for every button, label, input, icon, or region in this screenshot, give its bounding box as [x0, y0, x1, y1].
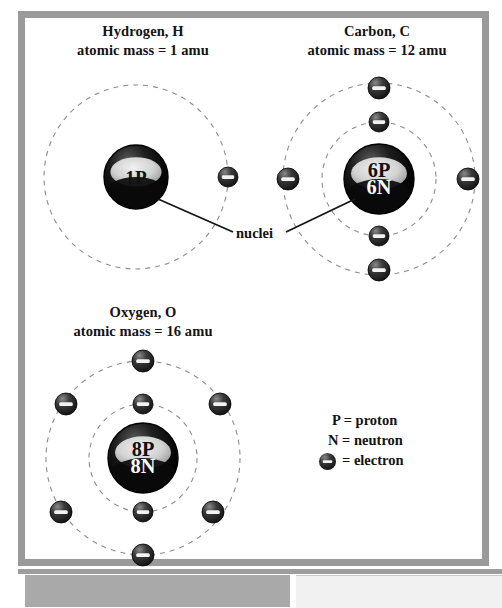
caption-oxygen-mass: atomic mass = 16 amu — [34, 322, 252, 341]
electron-minus-bar — [136, 553, 150, 557]
electron-minus-bar — [372, 268, 386, 272]
caption-carbon: Carbon, C atomic mass = 12 amu — [268, 22, 486, 59]
electron-oxygen-1 — [133, 394, 153, 414]
legend-row-neutron: N = neutron — [318, 430, 468, 450]
caption-carbon-mass: atomic mass = 12 amu — [268, 41, 486, 60]
legend-proton-text: P = proton — [332, 410, 397, 430]
caption-oxygen-name: Oxygen, O — [34, 303, 252, 322]
electron-oxygen-2 — [133, 502, 153, 522]
electron-hydrogen-1 — [218, 167, 238, 187]
legend-neutron-text: N = neutron — [328, 430, 403, 450]
electron-carbon-2 — [369, 226, 389, 246]
nucleus-neutron-label-carbon: 6N — [367, 176, 392, 198]
electron-oxygen-3 — [132, 350, 154, 372]
electron-minus-bar — [136, 359, 150, 363]
electron-carbon-4 — [368, 259, 390, 281]
electron-minus-bar — [372, 86, 386, 90]
electron-minus-bar — [206, 510, 220, 514]
electron-minus-bar — [373, 120, 385, 124]
electron-carbon-1 — [369, 112, 389, 132]
legend: P = proton N = neutron = electron — [318, 410, 468, 470]
electron-oxygen-5 — [55, 393, 77, 415]
electron-minus-bar — [54, 510, 68, 514]
electron-minus-bar — [137, 510, 149, 514]
electron-minus-bar — [59, 402, 73, 406]
electron-carbon-3 — [368, 77, 390, 99]
nucleus-hydrogen: 1P — [104, 145, 168, 210]
electron-oxygen-7 — [50, 501, 72, 523]
nucleus-carbon: 6P6N — [344, 144, 414, 215]
leader-line-nuclei-to-hydrogen — [158, 199, 233, 232]
electron-minus-bar — [213, 402, 227, 406]
legend-electron-text: = electron — [342, 450, 404, 470]
electron-minus-bar — [281, 177, 295, 181]
electron-oxygen-8 — [202, 501, 224, 523]
atom-hydrogen: 1P — [44, 85, 238, 269]
atom-carbon: 6P6N — [277, 77, 479, 281]
nucleus-oxygen: 8P8N — [108, 423, 178, 494]
electron-carbon-6 — [457, 168, 479, 190]
legend-row-proton: P = proton — [318, 410, 468, 430]
electron-oxygen-4 — [132, 544, 154, 566]
nuclei-callout-label: nuclei — [236, 225, 273, 242]
electron-carbon-5 — [277, 168, 299, 190]
caption-carbon-name: Carbon, C — [268, 22, 486, 41]
electron-minus-bar — [461, 177, 475, 181]
caption-oxygen: Oxygen, O atomic mass = 16 amu — [34, 303, 252, 340]
electron-minus-bar — [137, 402, 149, 406]
leader-line-nuclei-to-carbon — [286, 199, 355, 232]
electron-oxygen-6 — [209, 393, 231, 415]
electron-minus-bar — [222, 175, 234, 179]
caption-hydrogen: Hydrogen, H atomic mass = 1 amu — [34, 22, 252, 59]
nucleus-proton-label-hydrogen: 1P — [125, 167, 147, 188]
caption-hydrogen-name: Hydrogen, H — [34, 22, 252, 41]
nucleus-neutron-label-oxygen: 8N — [131, 455, 156, 477]
electron-icon — [318, 452, 337, 471]
atom-oxygen: 8P8N — [46, 350, 240, 566]
legend-row-electron: = electron — [318, 450, 468, 470]
caption-hydrogen-mass: atomic mass = 1 amu — [34, 41, 252, 60]
electron-minus-bar — [373, 234, 385, 238]
